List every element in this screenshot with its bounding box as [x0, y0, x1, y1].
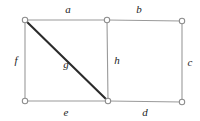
vertex-bottom-left: [22, 98, 27, 103]
edge-c-label: c: [188, 57, 193, 68]
edge-f-label: f: [14, 55, 17, 66]
edge-h-label: h: [114, 55, 120, 66]
edge-d-label: d: [142, 107, 148, 118]
graph-svg: [0, 0, 200, 121]
vertex-top-left: [22, 17, 27, 22]
edge-a-label: a: [65, 4, 71, 15]
edge-e-label: e: [64, 107, 69, 118]
edge-h: [107, 20, 108, 101]
edges-group: [25, 20, 182, 102]
vertex-bottom-middle: [105, 98, 110, 103]
vertex-top-right: [179, 18, 184, 23]
vertices-group: [22, 17, 184, 104]
edge-d: [108, 101, 182, 102]
graph-figure: abcdefgh: [0, 0, 200, 121]
vertex-bottom-right: [179, 99, 184, 104]
vertex-top-middle: [104, 17, 109, 22]
edge-g-label: g: [63, 59, 69, 70]
edge-b: [107, 20, 182, 21]
edge-b-label: b: [136, 4, 142, 15]
